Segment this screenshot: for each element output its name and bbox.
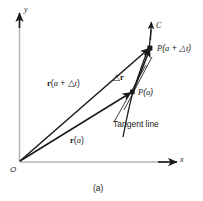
point-dot-p-a bbox=[130, 90, 135, 95]
origin-label: O bbox=[10, 166, 16, 174]
vector-label-r-a: r(a) bbox=[70, 136, 84, 145]
y-axis-label: y bbox=[24, 6, 28, 14]
vector-label-delta-r: △r bbox=[113, 73, 124, 82]
curve-label-c: C bbox=[156, 22, 161, 30]
figure-drawing-canvas bbox=[0, 0, 203, 201]
secant-line bbox=[124, 57, 152, 110]
figure-caption: (a) bbox=[93, 184, 103, 193]
tangent-line-label: Tangent line bbox=[113, 120, 159, 129]
vector-label-r-a-plus-delta-t: r(a + △t) bbox=[47, 79, 80, 88]
x-axis-label: x bbox=[180, 156, 184, 164]
curve-c-arrow bbox=[150, 22, 151, 40]
vector-calculus-figure: C y x O P(a + △t) P(a) △r r(a + △t) r(a)… bbox=[0, 0, 203, 201]
point-dot-p-a-plus-delta-t bbox=[147, 46, 152, 51]
point-label-p-a-plus-delta-t: P(a + △t) bbox=[157, 44, 191, 53]
point-label-p-a: P(a) bbox=[138, 88, 153, 97]
